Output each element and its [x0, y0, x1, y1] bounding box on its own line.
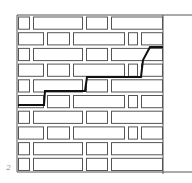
brick: [48, 33, 70, 45]
brick: [87, 80, 108, 92]
brick: [112, 80, 163, 92]
brick: [19, 17, 30, 29]
brick: [87, 111, 108, 123]
brick-courses: [19, 17, 163, 171]
brick: [129, 96, 138, 108]
brick: [48, 64, 70, 76]
brick: [19, 158, 30, 170]
brick: [34, 17, 83, 29]
brick: [87, 17, 108, 29]
brick-wall-diagram: [0, 0, 192, 183]
brick: [19, 33, 44, 45]
brick: [87, 48, 108, 60]
brick: [112, 158, 163, 170]
brick: [74, 64, 125, 76]
brick: [74, 96, 125, 108]
brick: [142, 127, 163, 139]
brick: [129, 33, 138, 45]
brick: [74, 127, 125, 139]
brick: [112, 17, 163, 29]
brick: [112, 111, 163, 123]
brick: [87, 143, 108, 155]
brick: [112, 143, 163, 155]
brick: [19, 143, 30, 155]
brick: [48, 127, 70, 139]
brick: [87, 158, 108, 170]
brick: [48, 96, 70, 108]
brick: [34, 111, 83, 123]
brick: [129, 127, 138, 139]
brick: [112, 48, 163, 60]
brick: [142, 64, 163, 76]
brick: [34, 48, 83, 60]
brick: [74, 33, 125, 45]
brick: [34, 143, 83, 155]
brick: [34, 158, 83, 170]
brick: [142, 33, 163, 45]
brick: [142, 96, 163, 108]
brick: [19, 80, 30, 92]
figure-label: 2: [6, 163, 11, 172]
brick: [19, 48, 30, 60]
brick: [129, 64, 138, 76]
brick: [19, 127, 44, 139]
brick: [19, 111, 30, 123]
brick: [19, 64, 44, 76]
